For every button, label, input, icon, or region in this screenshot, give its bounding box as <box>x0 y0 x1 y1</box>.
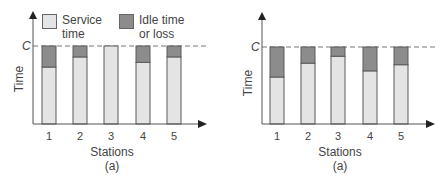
right-x-axis-label: Stations <box>300 145 380 159</box>
legend-idle-label: Idle time or loss <box>139 13 184 41</box>
bar-idle-5 <box>167 46 181 57</box>
bar-service-4 <box>136 62 150 124</box>
bar-idle-3 <box>331 47 345 56</box>
bar-service-3 <box>104 46 118 124</box>
bar-idle-2 <box>301 47 315 63</box>
left-tick-3: 3 <box>104 130 118 142</box>
legend-idle-line2: or loss <box>139 27 184 41</box>
right-c-label: C <box>251 40 260 54</box>
legend-idle-swatch <box>119 14 134 29</box>
right-tick-4: 4 <box>363 130 377 142</box>
bar-service-1 <box>42 67 56 124</box>
right-caption: (a) <box>320 159 360 173</box>
left-tick-5: 5 <box>167 130 181 142</box>
legend-service-line2: time <box>62 27 102 41</box>
right-chart: C Time 1 2 3 4 5 Stations (a) <box>223 0 446 179</box>
bar-idle-1 <box>42 46 56 67</box>
legend-service-label: Service time <box>62 13 102 41</box>
left-y-axis-label: Time <box>12 64 26 94</box>
legend-idle-line1: Idle time <box>139 13 184 27</box>
bar-idle-5 <box>394 47 408 65</box>
left-c-label: C <box>22 39 31 53</box>
y-axis-arrow-icon <box>29 11 37 19</box>
bar-service-3 <box>331 56 345 124</box>
right-tick-2: 2 <box>301 130 315 142</box>
left-chart: Service time Idle time or loss C Time 1 … <box>0 0 223 179</box>
y-axis-arrow-icon <box>258 12 266 20</box>
bar-idle-4 <box>363 47 377 71</box>
legend-service-line1: Service <box>62 13 102 27</box>
right-tick-1: 1 <box>270 130 284 142</box>
bar-service-5 <box>167 57 181 124</box>
right-y-axis-label: Time <box>241 68 255 98</box>
bar-service-2 <box>301 63 315 124</box>
left-tick-2: 2 <box>73 130 87 142</box>
right-tick-3: 3 <box>331 130 345 142</box>
bar-service-2 <box>73 57 87 124</box>
bar-service-1 <box>270 77 284 124</box>
bar-idle-2 <box>73 46 87 57</box>
left-caption: (a) <box>92 159 132 173</box>
bar-service-5 <box>394 65 408 124</box>
x-axis-arrow-icon <box>198 120 207 128</box>
x-axis-arrow-icon <box>426 120 435 128</box>
left-x-axis-label: Stations <box>72 145 152 159</box>
right-tick-5: 5 <box>394 130 408 142</box>
bar-service-4 <box>363 71 377 124</box>
bar-idle-1 <box>270 47 284 77</box>
left-tick-4: 4 <box>136 130 150 142</box>
left-tick-1: 1 <box>42 130 56 142</box>
legend-service-swatch <box>42 14 57 29</box>
bar-idle-4 <box>136 46 150 62</box>
